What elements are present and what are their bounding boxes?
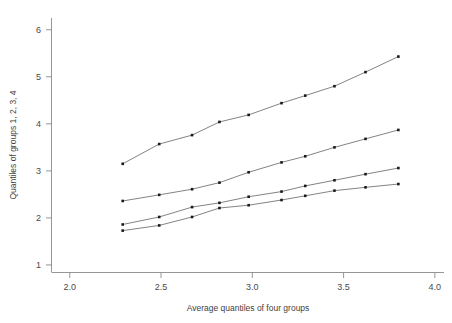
data-point [397,55,400,58]
data-point [304,155,307,158]
data-point [158,224,161,227]
y-tick-label: 2 [36,213,41,223]
data-point [247,171,250,174]
data-point [121,200,124,203]
data-point [397,129,400,132]
series-line [123,184,399,231]
data-point [397,183,400,186]
data-point [304,195,307,198]
data-point [158,216,161,219]
data-point [191,216,194,219]
y-tick-label: 6 [36,25,41,35]
data-point [333,146,336,149]
data-point [304,94,307,97]
data-point [191,188,194,191]
x-tick-label: 4.0 [429,282,442,292]
data-point [247,114,250,117]
x-axis-ticks: 2.02.53.03.54.0 [63,273,441,293]
chart-canvas: 123456 2.02.53.03.54.0 Average quantiles… [0,0,452,323]
x-tick-label: 3.5 [337,282,350,292]
data-point [158,143,161,146]
y-axis-title: Quantiles of groups 1, 2, 3, 4 [8,90,18,199]
data-point [333,85,336,88]
data-point [121,163,124,166]
data-point [333,179,336,182]
data-point [364,138,367,141]
series-line [123,130,399,201]
series-group-4 [121,183,399,232]
data-point [191,134,194,137]
data-point [364,186,367,189]
data-point [280,190,283,193]
data-point [191,206,194,209]
data-point [218,207,221,210]
x-tick-label: 2.5 [155,282,168,292]
y-axis-ticks: 123456 [36,25,52,270]
data-point [280,102,283,105]
data-point [280,199,283,202]
data-point [304,185,307,188]
x-tick-label: 3.0 [246,282,259,292]
data-point [333,189,336,192]
data-point [364,173,367,176]
data-point [158,194,161,197]
data-point [121,223,124,226]
y-tick-label: 4 [36,119,41,129]
series-group-3 [121,167,399,226]
series-group-1 [121,55,399,165]
data-point [280,161,283,164]
series-group-2 [121,129,399,203]
y-axis: 123456 [36,18,52,272]
data-point [121,229,124,232]
qq-plot-figure: 123456 2.02.53.03.54.0 Average quantiles… [0,0,452,323]
data-point [247,204,250,207]
data-point [218,202,221,205]
data-series-layer [121,55,399,232]
y-tick-label: 3 [36,166,41,176]
data-point [397,167,400,170]
y-tick-label: 1 [36,260,41,270]
x-tick-label: 2.0 [63,282,76,292]
x-axis-title: Average quantiles of four groups [187,303,310,313]
data-point [218,121,221,124]
data-point [364,71,367,74]
data-point [218,181,221,184]
series-line [123,168,399,224]
x-axis: 2.02.53.03.54.0 [52,273,445,293]
series-line [123,57,399,164]
y-tick-label: 5 [36,72,41,82]
data-point [247,195,250,198]
